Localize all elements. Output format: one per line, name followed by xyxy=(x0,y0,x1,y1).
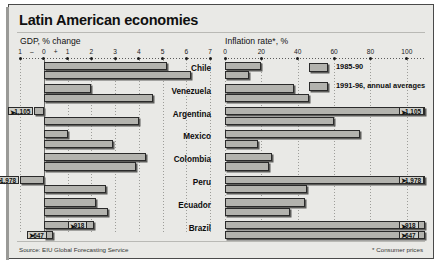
data-label: ➤918 xyxy=(399,221,419,229)
bar-argentina-1985-90 xyxy=(225,107,425,115)
country-label-mexico: Mexico xyxy=(183,132,211,141)
bar-brazil-1985-90 xyxy=(225,221,425,229)
axis-tick-label: 0 xyxy=(223,48,227,55)
bar-colombia-1991-96 xyxy=(44,162,137,170)
axis-tick-label: 60 xyxy=(330,48,337,55)
country-label-colombia: Colombia xyxy=(174,155,211,164)
data-label: ➤1,105 xyxy=(8,107,33,115)
data-label: ➤1,105 xyxy=(399,107,424,115)
bar-peru-1985-90 xyxy=(225,176,425,184)
axis-tick-label: 1 xyxy=(66,48,70,55)
arrow-icon: ➤ xyxy=(401,109,407,117)
arrow-icon: ➤ xyxy=(70,223,76,231)
bar-peru-1991-96 xyxy=(44,185,106,193)
bar-chile-1991-96 xyxy=(225,71,249,79)
bar-row: ➤1,978 xyxy=(225,174,425,197)
bar-venezuela-1985-90 xyxy=(44,84,92,92)
bar-argentina-1985-90 xyxy=(34,107,44,115)
bar-brazil-1991-96 xyxy=(225,231,425,239)
chart-figure: Latin American economies GDP, % change I… xyxy=(8,4,434,259)
arrow-icon: ➤ xyxy=(401,177,407,185)
inflation-axis-line xyxy=(225,58,425,59)
bar-venezuela-1991-96 xyxy=(225,94,309,102)
bar-mexico-1985-90 xyxy=(225,130,360,138)
axis-tick-label: 7 xyxy=(208,48,212,55)
bar-mexico-1985-90 xyxy=(44,130,68,138)
title-divider xyxy=(17,32,425,33)
country-label-venezuela: Venezuela xyxy=(171,87,211,96)
bar-peru-1985-90 xyxy=(20,176,44,184)
data-label: ➤918 xyxy=(68,221,88,229)
footer-divider xyxy=(17,241,425,242)
inflation-axis-title: Inflation rate*, % xyxy=(225,36,288,46)
gdp-axis-title: GDP, % change xyxy=(20,36,81,46)
arrow-icon: ➤ xyxy=(401,232,407,240)
bar-chile-1985-90 xyxy=(225,62,261,70)
bar-chile-1985-90 xyxy=(44,62,168,70)
bar-ecuador-1985-90 xyxy=(225,198,305,206)
axis-tick-label: 4 xyxy=(137,48,141,55)
axis-tick-label: 80 xyxy=(367,48,374,55)
data-label: ➤647 xyxy=(27,231,47,239)
country-label-ecuador: Ecuador xyxy=(178,201,211,210)
gdp-axis: 101234567–+ xyxy=(20,49,210,60)
axis-tick-label: 40 xyxy=(294,48,301,55)
footnote: * Consumer prices xyxy=(372,246,423,253)
bar-ecuador-1991-96 xyxy=(225,208,290,216)
inflation-panel: 020406080100 ➤1,105➤1,978➤918➤647 xyxy=(225,49,425,232)
bar-colombia-1985-90 xyxy=(44,153,146,161)
bar-argentina-1991-96 xyxy=(44,117,139,125)
arrow-icon: ➤ xyxy=(10,109,16,117)
legend-swatch-icon xyxy=(309,63,328,72)
bar-argentina-1991-96 xyxy=(225,117,334,125)
bar-ecuador-1991-96 xyxy=(44,208,108,216)
axis-sign-label: – xyxy=(30,48,34,55)
axis-tick-label: 20 xyxy=(258,48,265,55)
bar-mexico-1991-96 xyxy=(225,140,258,148)
country-labels: ChileVenezuelaArgentinaMexicoColombiaPer… xyxy=(159,60,211,243)
data-label: ➤1,978 xyxy=(399,176,424,184)
country-label-brazil: Brazil xyxy=(189,224,211,233)
data-label: ➤1,978 xyxy=(0,176,19,184)
bar-row xyxy=(225,197,425,220)
axis-sign-label: + xyxy=(54,48,58,55)
bar-row xyxy=(225,128,425,151)
country-label-chile: Chile xyxy=(191,64,211,73)
bar-colombia-1985-90 xyxy=(225,153,272,161)
axis-tick-label: 0 xyxy=(42,48,46,55)
legend-swatch-icon xyxy=(309,82,328,91)
bar-ecuador-1985-90 xyxy=(44,198,96,206)
axis-tick-label: 100 xyxy=(401,48,412,55)
legend-label: 1985-90 xyxy=(336,62,363,71)
axis-tick-label: 6 xyxy=(184,48,188,55)
bar-mexico-1991-96 xyxy=(44,140,113,148)
axis-tick-label: 1 xyxy=(18,48,22,55)
bar-colombia-1991-96 xyxy=(225,162,269,170)
bar-peru-1991-96 xyxy=(225,185,307,193)
arrow-icon: ➤ xyxy=(0,177,2,185)
legend-label: 1991-96, annual averages xyxy=(336,81,425,90)
axis-tick-label: 2 xyxy=(89,48,93,55)
bar-venezuela-1985-90 xyxy=(225,84,294,92)
page-title: Latin American economies xyxy=(19,12,198,28)
country-label-argentina: Argentina xyxy=(173,110,211,119)
axis-tick-label: 5 xyxy=(161,48,165,55)
source-note: Source: EIU Global Forecasting Service xyxy=(19,246,128,253)
axis-tick-label: 3 xyxy=(113,48,117,55)
country-label-peru: Peru xyxy=(193,178,211,187)
bar-venezuela-1991-96 xyxy=(44,94,153,102)
bar-row: ➤918➤647 xyxy=(225,220,425,243)
inflation-axis: 020406080100 xyxy=(225,49,425,60)
data-label: ➤647 xyxy=(399,231,419,239)
arrow-icon: ➤ xyxy=(29,232,35,240)
bar-row xyxy=(225,151,425,174)
bar-row: ➤1,105 xyxy=(225,106,425,129)
